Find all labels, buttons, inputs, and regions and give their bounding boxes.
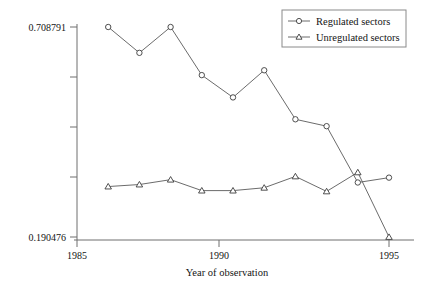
regulated-sectors-line xyxy=(108,27,389,183)
unregulated-sectors-markers xyxy=(105,169,392,239)
x-axis-tick-label-1985: 1985 xyxy=(67,250,87,261)
chart-legend: Regulated sectors Unregulated sectors xyxy=(282,10,406,47)
legend-label-regulated-sectors: Regulated sectors xyxy=(316,16,390,27)
unregulated-sectors-line xyxy=(108,172,389,237)
y-axis-tick-label-bottom: 0.190476 xyxy=(29,232,67,243)
circle-marker xyxy=(262,68,267,73)
triangle-marker xyxy=(261,185,268,191)
x-axis-tick-label-1990: 1990 xyxy=(209,250,229,261)
axis-group xyxy=(70,24,414,247)
triangle-marker xyxy=(292,173,299,179)
regulated-sectors-markers xyxy=(106,24,392,185)
circle-marker xyxy=(355,180,360,185)
triangle-marker xyxy=(355,169,362,175)
circle-marker xyxy=(199,72,204,77)
triangle-marker xyxy=(386,234,393,240)
x-axis-title: Year of observation xyxy=(186,267,269,278)
circle-marker xyxy=(168,24,173,29)
circle-marker xyxy=(293,117,298,122)
series-regulated-sectors xyxy=(106,24,392,185)
legend-label-unregulated-sectors: Unregulated sectors xyxy=(316,32,400,43)
y-axis-tick-label-top: 0.708791 xyxy=(29,22,67,33)
circle-marker xyxy=(137,50,142,55)
chart-container: 0.708791 0.190476 1985 1990 1995 Year of… xyxy=(0,0,422,292)
line-chart: 0.708791 0.190476 1985 1990 1995 Year of… xyxy=(0,0,422,292)
circle-marker xyxy=(386,175,391,180)
circle-marker xyxy=(230,95,235,100)
x-axis-tick-label-1995: 1995 xyxy=(379,250,399,261)
circle-marker xyxy=(296,18,301,23)
triangle-marker xyxy=(323,188,330,194)
circle-marker xyxy=(324,123,329,128)
triangle-marker xyxy=(167,177,174,183)
series-unregulated-sectors xyxy=(105,169,392,239)
circle-marker xyxy=(106,24,111,29)
